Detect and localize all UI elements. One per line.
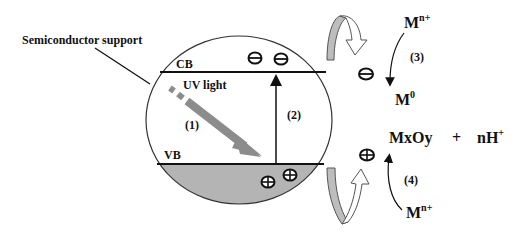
curl-arrow-in-icon — [327, 168, 369, 224]
curl-arrow-out-icon — [327, 16, 367, 60]
step-3-label: (3) — [410, 50, 424, 64]
electron-icon — [275, 54, 288, 65]
uv-light-arrow-icon — [170, 88, 262, 157]
electron-released-icon — [359, 69, 373, 80]
step-1-label: (1) — [185, 118, 199, 132]
proton-label: nH+ — [477, 127, 504, 146]
cb-label: CB — [176, 57, 193, 71]
metal-ion-bottom-label: Mn+ — [406, 202, 433, 221]
oxide-label: MxOy — [389, 129, 433, 147]
step-4-label: (4) — [404, 173, 418, 187]
metal-reduced-label: M0 — [395, 89, 415, 108]
electron-icon — [249, 53, 262, 64]
reduction-arrow-icon — [390, 33, 404, 82]
valence-band-fill — [140, 164, 340, 214]
hole-icon — [262, 177, 275, 188]
semiconductor-particle — [140, 36, 340, 214]
label-pointer-line — [95, 48, 150, 84]
uv-light-label: UV light — [183, 78, 226, 92]
plus-sign: + — [452, 129, 461, 146]
semiconductor-support-label: Semiconductor support — [22, 33, 142, 47]
hole-released-icon — [360, 150, 374, 161]
step-2-label: (2) — [287, 108, 301, 122]
oxidation-arrow-icon — [388, 158, 402, 210]
photocatalysis-diagram: Semiconductor support CB UV light (1) (2… — [0, 0, 528, 235]
hole-icon — [284, 170, 297, 181]
metal-ion-top-label: Mn+ — [404, 12, 431, 31]
vb-label: VB — [164, 148, 181, 162]
